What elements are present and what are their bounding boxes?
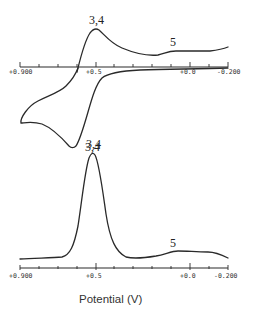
dpv-panel: +0.900 +0.5 +0.0 -0.200 3,4 5 Potential …: [9, 140, 238, 305]
cv-panel: +0.900 +0.5 +0.0 -0.200 3,4 5 3,4: [9, 13, 241, 151]
cv-tick-label-0.900: +0.900: [9, 68, 33, 76]
dpv-peak-label-main: 3,4: [85, 140, 100, 154]
cv-peak-label-anodic: 3,4: [89, 13, 104, 27]
cv-forward-scan-curve: [77, 29, 228, 72]
x-axis-title: Potential (V): [79, 293, 142, 305]
cv-reverse-scan-curve: [21, 68, 228, 148]
dpv-tick-label-0.5: +0.5: [86, 272, 102, 280]
dpv-tick-label-0.900: +0.900: [9, 272, 33, 280]
dpv-tick-label-minus-0.200: -0.200: [214, 272, 238, 280]
voltammogram-figure: +0.900 +0.5 +0.0 -0.200 3,4 5 3,4: [0, 0, 255, 321]
cv-peak-label-shoulder: 5: [170, 35, 176, 49]
dpv-x-ticks: [20, 263, 228, 270]
cv-x-ticks: [20, 62, 228, 67]
dpv-tick-label-0.0: +0.0: [180, 272, 196, 280]
dpv-curve: [20, 153, 228, 259]
dpv-peak-label-minor: 5: [170, 236, 176, 250]
cv-tick-label-0.5: +0.5: [86, 68, 102, 76]
cv-tick-label-minus-0.200: -0.200: [217, 68, 241, 76]
